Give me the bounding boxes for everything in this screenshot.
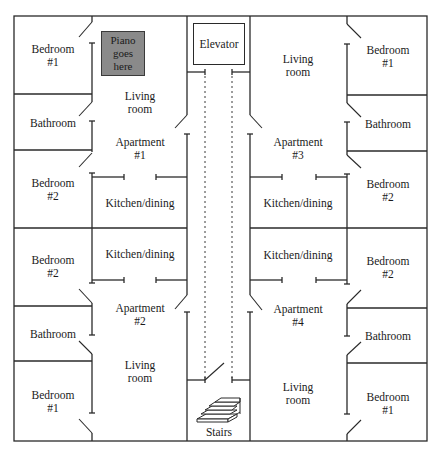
left-apartment-walls (14, 16, 187, 441)
apt1-bathroom-label: Bathroom (30, 117, 76, 130)
right-apartment-doors (347, 24, 361, 434)
stairs-icon (197, 398, 240, 422)
apt3-bedroom1-label: Bedroom#1 (367, 44, 410, 70)
piano-placement: Piano goes here (101, 31, 145, 76)
apt2-bedroom2-label: Bedroom#2 (32, 254, 75, 280)
apt4-bathroom-label: Bathroom (365, 330, 411, 343)
apt3-title: Apartment#3 (273, 136, 322, 162)
stairs-label: Stairs (206, 426, 232, 439)
apt4-bedroom2-label: Bedroom#2 (367, 255, 410, 281)
apt3-kitchen-label: Kitchen/dining (264, 197, 333, 210)
apt2-kitchen-label: Kitchen/dining (106, 248, 175, 261)
stairs-partition (187, 363, 250, 383)
apt1-bedroom2-label: Bedroom#2 (32, 177, 75, 203)
apt1-bedroom1-label: Bedroom#1 (32, 43, 75, 69)
apt4-kitchen-label: Kitchen/dining (264, 249, 333, 262)
apt4-title: Apartment#4 (273, 303, 322, 329)
apt1-kitchen-label: Kitchen/dining (106, 197, 175, 210)
apt1-living-room-label: Livingroom (125, 90, 156, 116)
corridor-doors (175, 115, 262, 310)
apt4-bedroom1-label: Bedroom#1 (367, 391, 410, 417)
apt3-bedroom2-label: Bedroom#2 (367, 178, 410, 204)
apt4-living-room-label: Livingroom (283, 381, 314, 407)
elevator-partition (187, 69, 250, 75)
apt3-living-room-label: Livingroom (283, 53, 314, 79)
piano-label-line2: goes (110, 47, 135, 60)
apt2-bedroom1-label: Bedroom#1 (32, 389, 75, 415)
piano-label-line1: Piano (110, 34, 135, 47)
apt2-living-room-label: Livingroom (125, 359, 156, 385)
apt2-title: Apartment#2 (115, 302, 164, 328)
apt2-bathroom-label: Bathroom (30, 328, 76, 341)
corridor-walls (184, 16, 253, 441)
apt3-bathroom-label: Bathroom (365, 118, 411, 131)
floor-plan: Elevator Stairs Piano goes here Bedroom#… (0, 0, 438, 451)
right-apartment-walls (250, 16, 427, 441)
elevator-label: Elevator (200, 38, 239, 50)
elevator: Elevator (193, 23, 245, 65)
piano-label-line3: here (110, 60, 135, 73)
apt1-title: Apartment#1 (115, 136, 164, 162)
